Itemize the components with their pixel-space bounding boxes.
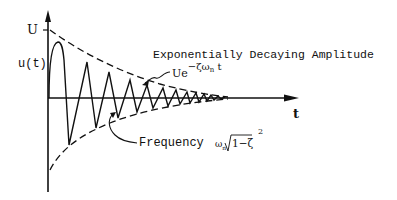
envelope-formula: Ue−ζωn t	[172, 68, 221, 79]
diagram-title: Exponentially Decaying Amplitude	[153, 49, 374, 61]
radical-body: 1−ζ	[232, 138, 253, 149]
vertical-axis	[43, 10, 51, 192]
diagram-canvas	[0, 0, 397, 200]
u-of-t-label: u(t)	[18, 58, 47, 70]
damped-oscillation-diagram: U u(t) t Exponentially Decaying Amplitud…	[0, 0, 397, 200]
envelope-leader-arrowhead	[142, 80, 149, 86]
envelope-base: Ue	[172, 67, 188, 80]
envelope-exponent-sub: n	[210, 66, 215, 74]
envelope-exponent-tail: t	[214, 61, 221, 72]
frequency-formula: ωn	[215, 140, 226, 149]
frequency-leader	[109, 115, 137, 143]
amplitude-u-label: U	[27, 23, 38, 36]
frequency-label: Frequency	[139, 137, 204, 149]
time-axis-label: t	[293, 107, 299, 120]
omega-subscript: n	[222, 144, 226, 151]
power-two: 2	[258, 128, 263, 136]
envelope-exponent: −ζω	[188, 61, 210, 72]
